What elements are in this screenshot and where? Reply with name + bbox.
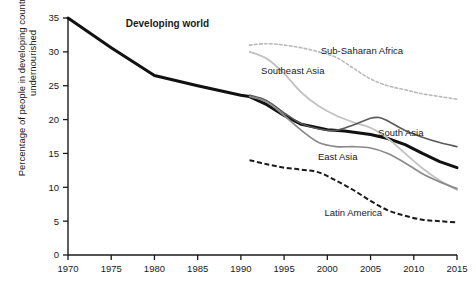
plot-area: 05101520253035 1970197519801985199019952…: [0, 0, 476, 293]
x-axis-ticks: 1970197519801985199019952000200520102015: [57, 255, 467, 274]
x-tick-label: 1970: [57, 263, 78, 274]
x-tick-label: 1980: [144, 263, 165, 274]
undernourishment-line-chart: Percentage of people in developing count…: [0, 0, 476, 293]
series-label-sub-saharan-africa: Sub-Saharan Africa: [321, 45, 404, 56]
x-tick-label: 1995: [274, 263, 295, 274]
y-tick-label: 25: [48, 80, 59, 91]
x-tick-label: 2000: [317, 263, 338, 274]
y-tick-label: 10: [48, 182, 59, 193]
y-tick-label: 0: [54, 249, 59, 260]
y-tick-label: 30: [48, 46, 59, 57]
y-tick-label: 5: [54, 216, 59, 227]
x-tick-label: 2010: [403, 263, 424, 274]
series-label-developing-world: Developing world: [126, 18, 209, 29]
series-label-south-asia: South Asia: [378, 127, 424, 138]
series-line-developing-world: [68, 18, 457, 168]
y-tick-label: 20: [48, 114, 59, 125]
series-label-east-asia: East Asia: [318, 151, 358, 162]
x-tick-label: 2005: [360, 263, 381, 274]
y-tick-label: 15: [48, 148, 59, 159]
y-axis-ticks: 05101520253035: [48, 12, 68, 260]
y-tick-label: 35: [48, 12, 59, 23]
x-tick-label: 1985: [187, 263, 208, 274]
series-label-southeast-asia: Southeast Asia: [261, 65, 325, 76]
x-tick-label: 1990: [230, 263, 251, 274]
series-label-latin-america: Latin America: [324, 207, 382, 218]
series-line-south-asia: [250, 95, 457, 146]
x-tick-label: 1975: [101, 263, 122, 274]
x-tick-label: 2015: [446, 263, 467, 274]
